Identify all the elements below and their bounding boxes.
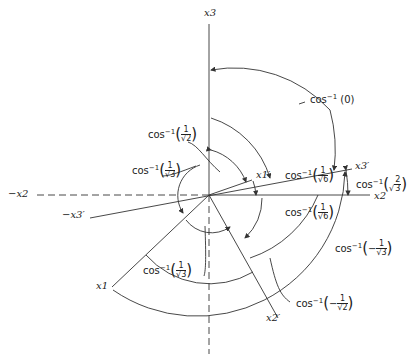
angle-label-1-sqrt2: cos−1(1√2): [148, 126, 197, 143]
arc-1-sqrt2: [211, 150, 246, 182]
arc-1-sqrt6-lower: [245, 198, 262, 238]
angle-label-1-sqrt3-upper: cos−1(1√3): [132, 162, 181, 179]
angle-label-cos0: cos−1 (0): [310, 94, 355, 105]
angle-label-1-sqrt6-upper: cos−1(1√6): [285, 167, 334, 184]
neg-x2-axis-label: −x2: [8, 189, 28, 199]
arc-x3-x3prime: [330, 110, 335, 170]
angle-label-1-sqrt6-lower: cos−1(1√6): [285, 204, 334, 221]
angle-label-neg-1-sqrt3: cos−1(−1√3): [335, 240, 392, 257]
arc-1-sqrt6-upper: [253, 181, 256, 195]
leader-1-sqrt3-lower: [204, 226, 206, 276]
x1-prime-axis: [209, 180, 252, 195]
angle-label-neg-1-sqrt2: cos−1(−1√2): [296, 295, 353, 312]
arc-sqrt2-3: [346, 170, 348, 195]
x3-axis-label: x3: [204, 8, 216, 18]
x3-prime-axis-label: x3′: [355, 161, 369, 171]
arc-1-sqrt3-upper: [178, 165, 200, 213]
x1-prime-axis-label: x1′: [256, 170, 270, 180]
leader-cos0: [299, 102, 305, 104]
arc-1-sqrt3-lower: [186, 220, 230, 233]
direction-cosine-diagram: [0, 0, 417, 354]
x1-axis-label: x1: [96, 281, 108, 291]
x2-prime-axis: [209, 195, 278, 318]
neg-x3-prime-axis-label: −x3′: [62, 210, 85, 220]
angle-label-1-sqrt3-lower: cos−1(1√3): [143, 262, 192, 279]
x2-prime-axis-label: x2′: [266, 313, 280, 323]
angle-label-sqrt2-3: cos−1(√23): [356, 176, 407, 193]
